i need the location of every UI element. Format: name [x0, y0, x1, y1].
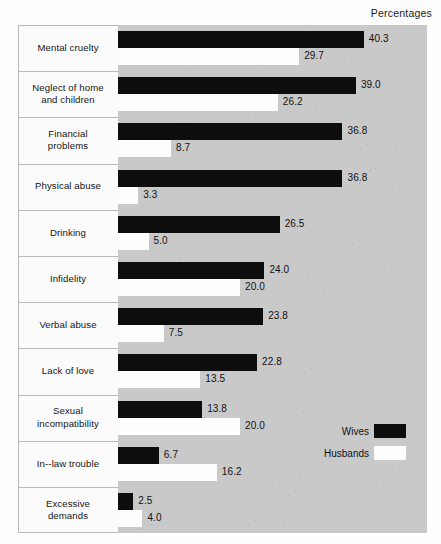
bar-value-label: 36.8: [347, 172, 367, 183]
bar-value-label: 2.5: [138, 495, 152, 506]
category-label-line: demands: [18, 510, 118, 523]
bar-value-label: 16.2: [222, 466, 242, 477]
legend-item-wives: Wives: [310, 424, 406, 442]
bar-rect-wives: [118, 493, 133, 510]
row-divider: [18, 348, 118, 349]
row-divider: [18, 395, 118, 396]
category-label: Excessivedemands: [18, 498, 118, 523]
chart-row: Physical abuse36.83.3: [18, 164, 427, 210]
bar-value-label: 6.7: [164, 449, 178, 460]
bar-value-label: 13.8: [207, 403, 227, 414]
category-label-line: Lack of love: [18, 365, 118, 378]
bar-rect-husbands: [118, 233, 149, 250]
bar-rect-wives: [118, 31, 364, 48]
bar-value-label: 20.0: [245, 420, 265, 431]
category-label: Drinking: [18, 227, 118, 240]
chart-row: Verbal abuse23.87.5: [18, 302, 427, 348]
row-divider: [18, 256, 118, 257]
bar-rect-wives: [118, 262, 264, 279]
category-label: Mental cruelty: [18, 42, 118, 55]
category-label-line: Neglect of home: [18, 82, 118, 95]
row-divider: [18, 71, 118, 72]
category-label-line: Physical abuse: [18, 180, 118, 193]
category-label-line: and children: [18, 94, 118, 107]
bar-rect-husbands: [118, 464, 217, 481]
category-label-line: Excessive: [18, 498, 118, 511]
category-label-line: Infidelity: [18, 273, 118, 286]
legend: WivesHusbands: [310, 424, 406, 468]
bar-rect-wives: [118, 77, 356, 94]
bar-rect-husbands: [118, 325, 164, 342]
bar-rect-husbands: [118, 48, 299, 65]
bar-rect-husbands: [118, 279, 240, 296]
legend-label: Husbands: [324, 448, 369, 459]
bar-rect-husbands: [118, 418, 240, 435]
bar-rect-husbands: [118, 371, 200, 388]
bar-value-label: 13.5: [205, 373, 225, 384]
percentages-axis-note: Percentages: [371, 7, 432, 19]
bar-value-label: 26.2: [283, 96, 303, 107]
bar-rect-wives: [118, 447, 159, 464]
category-label-line: problems: [18, 140, 118, 153]
category-label: Physical abuse: [18, 180, 118, 193]
category-label-line: Mental cruelty: [18, 42, 118, 55]
legend-swatch-husbands: [374, 446, 406, 460]
bar-rect-husbands: [118, 140, 171, 157]
bar-rect-wives: [118, 216, 280, 233]
row-divider: [18, 487, 118, 488]
row-divider: [18, 441, 118, 442]
row-divider: [18, 302, 118, 303]
bar-rect-wives: [118, 354, 257, 371]
row-divider: [18, 117, 118, 118]
bar-value-label: 20.0: [245, 281, 265, 292]
category-label: Neglect of homeand children: [18, 82, 118, 107]
bar-value-label: 36.8: [347, 125, 367, 136]
chart-row: Mental cruelty40.329.7: [18, 25, 427, 71]
bar-value-label: 40.3: [369, 33, 389, 44]
chart-row: Financialproblems36.88.7: [18, 117, 427, 163]
bar-value-label: 22.8: [262, 356, 282, 367]
category-label: Verbal abuse: [18, 319, 118, 332]
category-label-line: In--law trouble: [18, 458, 118, 471]
bar-rect-wives: [118, 123, 342, 140]
legend-swatch-wives: [374, 424, 406, 438]
category-label: Sexualincompatibility: [18, 405, 118, 430]
bar-rect-husbands: [118, 510, 142, 527]
bar-rect-husbands: [118, 187, 138, 204]
bar-value-label: 3.3: [143, 189, 157, 200]
category-label-line: incompatibility: [18, 418, 118, 431]
bar-value-label: 7.5: [169, 327, 183, 338]
bar-value-label: 39.0: [361, 79, 381, 90]
bar-rect-husbands: [118, 94, 278, 111]
category-label: Lack of love: [18, 365, 118, 378]
category-label: Financialproblems: [18, 128, 118, 153]
category-label-line: Verbal abuse: [18, 319, 118, 332]
chart-row: Neglect of homeand children39.026.2: [18, 71, 427, 117]
bar-rect-wives: [118, 170, 342, 187]
bar-value-label: 24.0: [269, 264, 289, 275]
bar-value-label: 26.5: [285, 218, 305, 229]
divorce-reasons-bar-chart: Percentages Mental cruelty40.329.7Neglec…: [0, 0, 441, 544]
bar-rect-wives: [118, 308, 263, 325]
bar-rect-wives: [118, 401, 202, 418]
category-label-line: Sexual: [18, 405, 118, 418]
legend-label: Wives: [342, 426, 369, 437]
row-divider: [18, 210, 118, 211]
chart-row: Excessivedemands2.54.0: [18, 487, 427, 533]
bar-value-label: 23.8: [268, 310, 288, 321]
category-label-line: Drinking: [18, 227, 118, 240]
chart-row: Infidelity24.020.0: [18, 256, 427, 302]
bar-value-label: 8.7: [176, 142, 190, 153]
row-divider: [18, 164, 118, 165]
chart-row: Lack of love22.813.5: [18, 348, 427, 394]
category-label: In--law trouble: [18, 458, 118, 471]
bar-value-label: 5.0: [154, 235, 168, 246]
legend-item-husbands: Husbands: [310, 446, 406, 464]
bar-value-label: 4.0: [147, 512, 161, 523]
chart-row: Drinking26.55.0: [18, 210, 427, 256]
category-label: Infidelity: [18, 273, 118, 286]
bar-value-label: 29.7: [304, 50, 324, 61]
category-label-line: Financial: [18, 128, 118, 141]
